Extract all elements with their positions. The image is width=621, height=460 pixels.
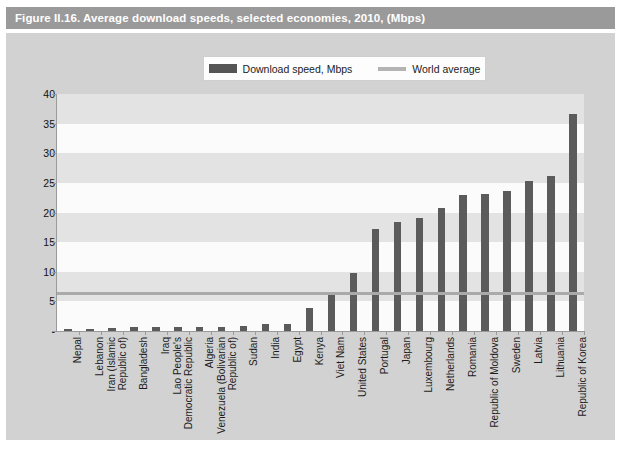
x-axis-label: Kenya bbox=[314, 337, 325, 365]
x-axis-label: Viet Nam bbox=[335, 337, 346, 378]
x-axis-label: Bangladesh bbox=[138, 337, 149, 390]
bar bbox=[328, 292, 336, 331]
x-axis-label: Sudan bbox=[248, 337, 259, 366]
x-axis-label: Netherlands bbox=[445, 337, 456, 391]
figure-title: Figure II.16. Average download speeds, s… bbox=[6, 12, 425, 24]
legend-item-world-average: World average bbox=[378, 63, 480, 75]
plot-area bbox=[57, 94, 584, 331]
x-axis-label: Iran (IslamicRepublic of) bbox=[106, 337, 128, 391]
y-axis-tick-mark bbox=[52, 183, 57, 184]
x-axis-label: Lebanon bbox=[94, 337, 105, 376]
x-axis-tick-mark bbox=[342, 331, 343, 335]
x-axis-tick-mark bbox=[321, 331, 322, 335]
y-axis-tick-mark bbox=[52, 124, 57, 125]
x-axis-labels: NepalLebanonIran (IslamicRepublic of)Ban… bbox=[57, 337, 584, 457]
x-axis-label: Iraq bbox=[160, 337, 171, 354]
x-axis-tick-mark bbox=[145, 331, 146, 335]
bar-series bbox=[57, 94, 584, 331]
x-axis-tick-mark bbox=[562, 331, 563, 335]
x-axis-tick-mark bbox=[299, 331, 300, 335]
y-axis-tick-mark bbox=[52, 242, 57, 243]
x-axis-tick-mark bbox=[452, 331, 453, 335]
bar bbox=[306, 308, 314, 331]
x-axis-label: Romania bbox=[467, 337, 478, 377]
x-axis-label: Japan bbox=[401, 337, 412, 364]
x-axis-tick-mark bbox=[211, 331, 212, 335]
x-axis-label: India bbox=[270, 337, 281, 359]
x-axis-tick-mark bbox=[123, 331, 124, 335]
x-axis-tick-mark bbox=[101, 331, 102, 335]
x-axis-tick-mark bbox=[167, 331, 168, 335]
x-axis-tick-mark bbox=[277, 331, 278, 335]
legend-item-download-speed: Download speed, Mbps bbox=[209, 63, 353, 75]
x-axis-tick-mark bbox=[79, 331, 80, 335]
x-axis-tick-mark bbox=[408, 331, 409, 335]
plot-wrapper: -510152025303540 bbox=[57, 94, 584, 331]
x-axis-label: Venezuela (BolivarianRepublic of) bbox=[216, 337, 238, 434]
bar bbox=[284, 324, 292, 331]
x-axis-tick-mark bbox=[233, 331, 234, 335]
x-axis-tick-mark bbox=[255, 331, 256, 335]
x-axis-tick-mark bbox=[430, 331, 431, 335]
x-axis-label: Latvia bbox=[533, 337, 544, 364]
x-axis-tick-mark bbox=[496, 331, 497, 335]
x-axis-label: Egypt bbox=[292, 337, 303, 363]
x-axis-label: Republic of Moldova bbox=[489, 337, 500, 428]
x-axis-label: Sweden bbox=[511, 337, 522, 373]
bar bbox=[350, 273, 358, 331]
x-axis-tick-mark bbox=[189, 331, 190, 335]
x-axis-tick-mark bbox=[474, 331, 475, 335]
x-axis-label: United States bbox=[357, 337, 368, 397]
x-axis-tick-mark bbox=[518, 331, 519, 335]
y-axis-tick-mark bbox=[52, 94, 57, 95]
x-axis-label: Lao People'sDemocratic Republic bbox=[172, 337, 194, 429]
x-axis-tick-mark bbox=[584, 331, 585, 335]
y-axis-tick-mark bbox=[52, 331, 57, 332]
chart-legend: Download speed, Mbps World average bbox=[203, 56, 486, 81]
bar bbox=[481, 194, 489, 331]
bar bbox=[503, 191, 511, 331]
bar bbox=[547, 176, 555, 331]
x-axis-tick-mark bbox=[540, 331, 541, 335]
figure-root: Figure II.16. Average download speeds, s… bbox=[0, 0, 621, 460]
chart-panel: Download speed, Mbps World average -5101… bbox=[6, 33, 615, 440]
figure-title-bar: Figure II.16. Average download speeds, s… bbox=[6, 7, 615, 29]
figure-footer bbox=[6, 445, 615, 457]
bar bbox=[416, 218, 424, 331]
x-axis-tick-mark bbox=[364, 331, 365, 335]
legend-label-world-average: World average bbox=[412, 63, 480, 75]
y-axis-tick-mark bbox=[52, 301, 57, 302]
y-axis-tick-mark bbox=[52, 213, 57, 214]
x-axis-label: Republic of Korea bbox=[577, 337, 588, 417]
x-axis-tick-mark bbox=[386, 331, 387, 335]
x-axis-label: Luxembourg bbox=[423, 337, 434, 393]
bar bbox=[459, 195, 467, 331]
x-axis-label: Lithuania bbox=[555, 337, 566, 378]
x-axis-label: Algeria bbox=[204, 337, 215, 368]
x-axis-label: Portugal bbox=[379, 337, 390, 374]
y-axis-tick-mark bbox=[52, 153, 57, 154]
x-axis-label: Nepal bbox=[72, 337, 83, 363]
legend-line-swatch-icon bbox=[378, 67, 406, 71]
y-axis-tick-mark bbox=[52, 272, 57, 273]
bar bbox=[569, 114, 577, 331]
bar bbox=[394, 222, 402, 331]
legend-bar-swatch-icon bbox=[209, 64, 237, 73]
bar bbox=[525, 181, 533, 331]
bar bbox=[438, 208, 446, 331]
bar bbox=[372, 229, 380, 331]
world-average-line bbox=[57, 292, 584, 295]
legend-label-download-speed: Download speed, Mbps bbox=[243, 63, 353, 75]
